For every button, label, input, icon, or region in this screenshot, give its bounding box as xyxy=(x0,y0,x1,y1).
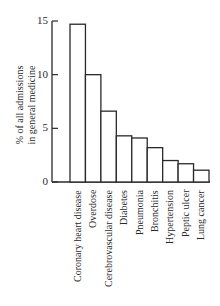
x-tick-label: Peptic ulcer xyxy=(180,190,191,237)
x-tick-label: Cerebrovascular disease xyxy=(103,190,114,287)
y-tick-label: 0 xyxy=(28,175,48,187)
bar xyxy=(85,75,100,182)
bar xyxy=(116,136,131,182)
bar xyxy=(163,161,178,182)
bar xyxy=(101,111,116,182)
x-tick-label: Hypertension xyxy=(164,190,175,244)
bar-chart: % of all admissions in general medicine … xyxy=(0,0,220,306)
x-tick-label: Lung cancer xyxy=(195,190,206,240)
bar xyxy=(178,164,193,182)
bar xyxy=(147,148,162,182)
bar xyxy=(70,24,85,182)
x-tick-label: Bronchitis xyxy=(149,190,160,232)
x-tick-label: Overdose xyxy=(87,190,98,228)
y-tick-label: 5 xyxy=(28,121,48,133)
x-tick-label: Pneumonia xyxy=(134,190,145,235)
y-tick-label: 10 xyxy=(28,68,48,80)
x-tick-label: Coronary heart disease xyxy=(72,190,83,282)
x-tick-label: Diabetes xyxy=(118,190,129,225)
bar xyxy=(132,138,147,182)
y-tick-label: 15 xyxy=(28,14,48,26)
bar xyxy=(194,170,209,182)
